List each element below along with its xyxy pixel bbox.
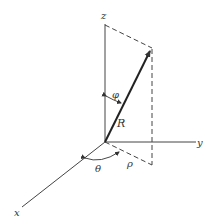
x-axis [22,142,105,207]
theta-angle-label: θ [95,163,101,174]
x-axis-label: x [14,207,20,218]
z-axis-label: z [100,10,107,21]
top-dashed-line [105,25,152,48]
spherical-coordinate-diagram: z y x R φ θ ρ [0,0,215,222]
r-vector-label: R [116,117,125,130]
rho-label: ρ [126,158,133,169]
phi-angle-label: φ [112,89,119,100]
y-axis-label: y [196,137,203,148]
